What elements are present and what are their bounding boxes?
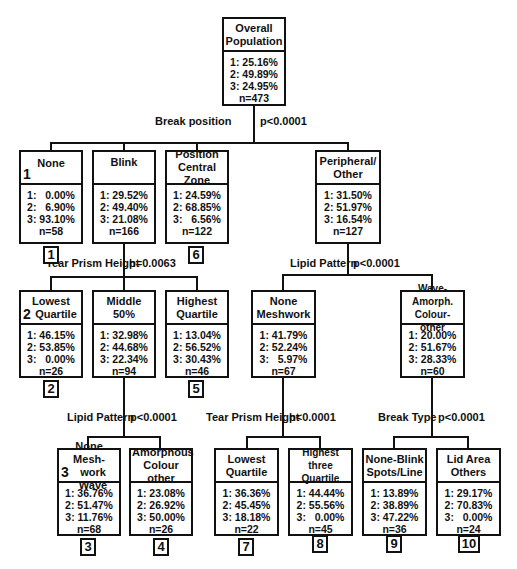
class-2-percent: 2: 6.90%: [21, 201, 81, 213]
class-2-percent: 2: 45.45%: [216, 499, 277, 511]
connector: [123, 377, 125, 437]
node-header: Highest three Quartile: [290, 450, 351, 483]
class-3-percent: 3: 6.56%: [167, 213, 227, 225]
node-header: Lowest Quartile: [216, 450, 277, 483]
split-p-value: p<0.0001: [130, 411, 177, 423]
node-stats: 1: 13.89% 2: 38.89% 3: 47.22% n=36: [364, 483, 425, 535]
split-label-peripheral: Lipid Pattern p<0.0001: [290, 257, 357, 269]
split-p-value: p<0.0001: [260, 115, 307, 127]
class-1-percent: 1: 41.79%: [253, 329, 314, 341]
node-title: Quartile: [291, 472, 350, 485]
class-3-percent: 3: 93.10%: [21, 213, 81, 225]
class-1-percent: 1: 0.00%: [21, 189, 81, 201]
leaf-label-8: 8: [312, 535, 328, 553]
node-count: n=60: [402, 365, 463, 377]
class-1-percent: 1: 44.44%: [290, 487, 351, 499]
terminal-node-number: 1: [23, 167, 31, 181]
node-header: None Mesh- work Wave 3: [59, 450, 119, 483]
class-1-percent: 1: 24.59%: [167, 189, 227, 201]
class-2-percent: 2: 49.40%: [94, 201, 154, 213]
class-1-percent: 1: 25.16%: [224, 56, 284, 68]
connector: [393, 436, 469, 438]
node-highest-three-quartile: Highest three Quartile 1: 44.44% 2: 55.5…: [288, 448, 353, 536]
node-stats: 1: 32.98% 2: 44.68% 3: 22.34% n=94: [94, 325, 154, 377]
connector: [431, 377, 433, 437]
node-title: Meshwork: [254, 308, 313, 321]
node-title: Quartile: [168, 308, 226, 321]
node-stats: 1: 25.16% 2: 49.89% 3: 24.95% n=473: [224, 52, 284, 104]
node-stats: 1: 23.08% 2: 26.92% 3: 50.00% n=26: [131, 483, 191, 535]
class-2-percent: 2: 51.97%: [317, 201, 379, 213]
class-2-percent: 2: 44.68%: [94, 341, 154, 353]
node-header: Lid Area Others: [438, 450, 499, 483]
node-stats: 1: 31.50% 2: 51.97% 3: 16.54% n=127: [317, 185, 379, 237]
class-2-percent: 2: 52.24%: [253, 341, 314, 353]
node-title: Colour other: [132, 459, 190, 485]
class-1-percent: 1: 32.98%: [94, 329, 154, 341]
node-middle-50: Middle 50% 1: 32.98% 2: 44.68% 3: 22.34%…: [92, 290, 156, 378]
class-2-percent: 2: 38.89%: [364, 499, 425, 511]
node-header: Blink: [94, 152, 154, 185]
node-title: Lid Area: [439, 453, 498, 466]
node-title: Blink: [95, 156, 153, 169]
node-header: None-Blink Spots/Line: [364, 450, 425, 483]
class-1-percent: 1: 13.89%: [364, 487, 425, 499]
node-count: n=24: [438, 523, 499, 535]
connector: [253, 105, 255, 143]
node-title: Peripheral/: [318, 155, 378, 168]
class-3-percent: 3: 0.00%: [290, 511, 351, 523]
split-variable: Break Type: [378, 411, 437, 423]
node-amorphous-colour-other: Amorphous Colour other 1: 23.08% 2: 26.9…: [129, 448, 193, 536]
node-none-blink-spots-line: None-Blink Spots/Line 1: 13.89% 2: 38.89…: [362, 448, 427, 536]
connector: [282, 274, 284, 291]
node-title: Spots/Line: [365, 466, 424, 479]
node-count: n=26: [131, 523, 191, 535]
split-p-value: p=0.0063: [129, 257, 176, 269]
node-count: n=46: [167, 365, 227, 377]
node-stats: 1: 41.79% 2: 52.24% 3: 5.97% n=67: [253, 325, 314, 377]
node-count: n=166: [94, 225, 154, 237]
split-variable: Tear Prism Height: [206, 411, 299, 423]
split-p-value: p<0.0001: [353, 257, 400, 269]
node-header: Overall Population: [224, 19, 284, 52]
class-2-percent: 2: 49.89%: [224, 68, 284, 80]
node-title: Overall: [225, 22, 283, 35]
node-title: Colour-other: [403, 308, 462, 334]
node-title: Central Zone: [168, 161, 226, 187]
node-overall-population: Overall Population 1: 25.16% 2: 49.89% 3…: [222, 17, 286, 106]
class-3-percent: 3: 24.95%: [224, 80, 284, 92]
connector: [282, 377, 284, 437]
node-count: n=58: [21, 225, 81, 237]
terminal-node-number: 3: [61, 465, 69, 479]
node-none-meshwork-wave: None Mesh- work Wave 3 1: 36.76% 2: 51.4…: [57, 448, 121, 536]
class-1-percent: 1: 29.52%: [94, 189, 154, 201]
class-3-percent: 3: 0.00%: [21, 353, 81, 365]
split-p-value: p<0.0001: [438, 411, 485, 423]
node-stats: 1: 29.52% 2: 49.40% 3: 21.08% n=166: [94, 185, 154, 237]
connector: [196, 276, 198, 291]
node-header: Peripheral/ Other: [317, 152, 379, 185]
class-2-percent: 2: 55.56%: [290, 499, 351, 511]
node-none-meshwork: None Meshwork 1: 41.79% 2: 52.24% 3: 5.9…: [251, 290, 316, 378]
leaf-label-3: 3: [80, 538, 96, 556]
node-stats: 1: 36.36% 2: 45.45% 3: 18.18% n=22: [216, 483, 277, 535]
node-none: None 1 1: 0.00% 2: 6.90% 3: 93.10% n=58: [19, 150, 83, 244]
node-header: Highest Quartile: [167, 292, 227, 325]
node-header: Middle 50%: [94, 292, 154, 325]
class-2-percent: 2: 56.52%: [167, 341, 227, 353]
node-peripheral-other: Peripheral/ Other 1: 31.50% 2: 51.97% 3:…: [315, 150, 381, 244]
terminal-node-number: 2: [23, 307, 31, 321]
class-2-percent: 2: 68.85%: [167, 201, 227, 213]
node-title: None Mesh-: [60, 440, 118, 466]
node-stats: 1: 24.59% 2: 68.85% 3: 6.56% n=122: [167, 185, 227, 237]
connector: [87, 436, 161, 438]
connector: [50, 276, 52, 291]
leaf-label-2: 2: [43, 380, 59, 398]
node-title: Lowest: [217, 453, 276, 466]
leaf-label-5: 5: [188, 380, 204, 398]
leaf-label-10: 10: [458, 535, 480, 553]
split-variable: Break position: [155, 115, 231, 127]
node-stats: 1: 46.15% 2: 53.85% 3: 0.00% n=26: [21, 325, 81, 377]
node-stats: 1: 29.17% 2: 70.83% 3: 0.00% n=24: [438, 483, 499, 535]
leaf-label-9: 9: [386, 535, 402, 553]
